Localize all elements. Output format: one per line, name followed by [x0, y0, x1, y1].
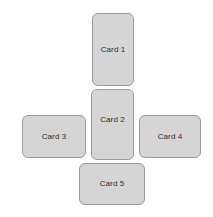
card-2-label: Card 2 — [100, 116, 125, 124]
card-1[interactable]: Card 1 — [92, 13, 134, 86]
card-5-label: Card 5 — [100, 180, 125, 188]
card-4[interactable]: Card 4 — [139, 115, 201, 158]
card-5[interactable]: Card 5 — [79, 163, 145, 205]
card-3-label: Card 3 — [42, 133, 67, 141]
card-diagram-canvas: Card 1 Card 2 Card 3 Card 4 Card 5 — [0, 0, 213, 217]
card-2[interactable]: Card 2 — [91, 89, 134, 160]
card-4-label: Card 4 — [158, 133, 183, 141]
card-3[interactable]: Card 3 — [22, 115, 86, 158]
card-1-label: Card 1 — [101, 46, 126, 54]
